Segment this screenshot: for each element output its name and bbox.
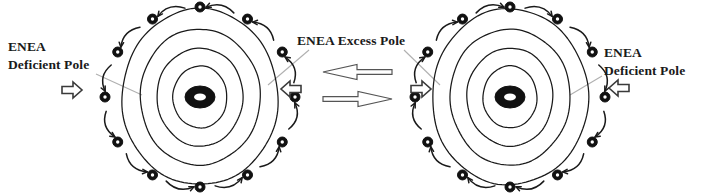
label-enea-deficient-pole-left: ENEA Deficient Pole bbox=[8, 38, 89, 74]
motion-arrow-shaft-1-11 bbox=[413, 103, 422, 129]
label-left-line2: Deficient Pole bbox=[8, 56, 89, 74]
orbiting-particle bbox=[195, 2, 205, 12]
orbiting-particle bbox=[277, 137, 287, 147]
motion-arrow-shaft-0-1 bbox=[289, 103, 298, 129]
particle-core bbox=[591, 140, 594, 143]
leader-center-label-left bbox=[268, 50, 309, 85]
particle-core bbox=[591, 50, 594, 53]
particle-core bbox=[426, 140, 429, 143]
particle-core bbox=[426, 50, 429, 53]
label-center-line1: ENEA Excess Pole bbox=[297, 32, 405, 50]
particle-core bbox=[198, 185, 201, 188]
particle-core bbox=[556, 173, 559, 176]
orbiting-particle bbox=[195, 182, 205, 192]
particle-core bbox=[151, 173, 154, 176]
exchange-arrow-right bbox=[323, 92, 392, 107]
orbiting-particle bbox=[505, 2, 515, 12]
diagram-canvas: ENEA Deficient Pole ENEA Excess Pole ENE… bbox=[0, 0, 711, 195]
particle-core bbox=[116, 140, 119, 143]
label-left-line1: ENEA bbox=[8, 38, 89, 56]
particle-core bbox=[413, 95, 416, 98]
orbiting-particle bbox=[113, 47, 123, 57]
particle-core bbox=[198, 5, 201, 8]
orbiting-particle bbox=[410, 92, 420, 102]
particle-core bbox=[293, 95, 296, 98]
label-right-line2: Deficient Pole bbox=[604, 62, 685, 80]
orbiting-particle bbox=[423, 47, 433, 57]
exchange-arrows bbox=[323, 65, 392, 107]
orbiting-particle bbox=[290, 92, 300, 102]
particle-core bbox=[508, 185, 511, 188]
label-enea-deficient-pole-right: ENEA Deficient Pole bbox=[604, 44, 685, 80]
right-outer-pole-arrow bbox=[609, 80, 629, 96]
orbiting-particle bbox=[243, 170, 253, 180]
particle-core bbox=[246, 173, 249, 176]
particle-core bbox=[103, 95, 106, 98]
orbiting-particle bbox=[423, 137, 433, 147]
orbiting-particle bbox=[587, 47, 597, 57]
orbiting-particle bbox=[243, 14, 253, 24]
left-field-diagram bbox=[100, 2, 300, 192]
exchange-arrow-left bbox=[323, 65, 392, 80]
particle-core bbox=[281, 50, 284, 53]
particle-core bbox=[151, 17, 154, 20]
orbiting-particle bbox=[505, 182, 515, 192]
right-field-diagram bbox=[410, 2, 610, 192]
particle-core bbox=[116, 50, 119, 53]
particle-core bbox=[281, 140, 284, 143]
label-right-line1: ENEA bbox=[604, 44, 685, 62]
orbiting-particle bbox=[458, 14, 468, 24]
leader-right-label bbox=[570, 76, 602, 95]
orbiting-particle bbox=[148, 170, 158, 180]
orbiting-particle bbox=[600, 92, 610, 102]
orbiting-particle bbox=[553, 14, 563, 24]
orbiting-particle bbox=[587, 137, 597, 147]
nucleus-hole bbox=[504, 94, 516, 101]
particle-core bbox=[556, 17, 559, 20]
particle-core bbox=[603, 95, 606, 98]
particle-core bbox=[508, 5, 511, 8]
orbiting-particle bbox=[113, 137, 123, 147]
particle-core bbox=[246, 17, 249, 20]
field-diagram-svg bbox=[0, 0, 711, 195]
motion-arrow-shaft-1-4 bbox=[570, 27, 589, 47]
particle-core bbox=[461, 17, 464, 20]
orbiting-particle bbox=[100, 92, 110, 102]
pole-arrows bbox=[62, 80, 629, 98]
motion-arrow-shaft-1-8 bbox=[516, 181, 544, 189]
label-enea-excess-pole: ENEA Excess Pole bbox=[297, 32, 405, 50]
orbiting-particle bbox=[277, 47, 287, 57]
orbiting-particle bbox=[553, 170, 563, 180]
orbiting-particle bbox=[458, 170, 468, 180]
orbiting-particle bbox=[148, 14, 158, 24]
nucleus-hole bbox=[194, 94, 206, 101]
particle-core bbox=[461, 173, 464, 176]
left-outer-pole-arrow bbox=[62, 82, 82, 98]
